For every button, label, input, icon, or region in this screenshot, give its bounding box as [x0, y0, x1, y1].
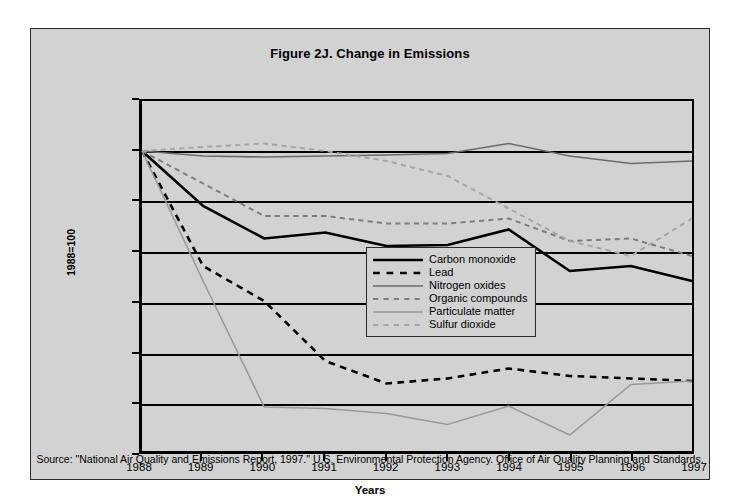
- legend-label: Sulfur dioxide: [429, 318, 496, 331]
- legend-label: Particulate matter: [429, 305, 515, 318]
- legend-item-carbon-monoxide: Carbon monoxide: [372, 253, 527, 266]
- legend-label: Lead: [429, 266, 453, 279]
- y-tick-mark-80: [132, 250, 139, 252]
- y-tick-mark-100: [132, 149, 139, 151]
- legend-item-organic-compounds: Organic compounds: [372, 292, 527, 305]
- legend-swatch-icon: [372, 306, 424, 318]
- legend-label: Carbon monoxide: [429, 253, 516, 266]
- legend-swatch-icon: [372, 254, 424, 266]
- x-axis-title: Years: [31, 484, 709, 496]
- legend-swatch-icon: [372, 319, 424, 331]
- y-tick-mark-60: [132, 352, 139, 354]
- y-axis-title: 1988=100: [65, 229, 77, 276]
- series-line-organic-compounds: [142, 151, 692, 256]
- page-root: Figure 2J. Change in Emissions 1988=100 …: [0, 0, 740, 502]
- legend-item-nitrogen-oxides: Nitrogen oxides: [372, 279, 527, 292]
- legend-item-sulfur-dioxide: Sulfur dioxide: [372, 318, 527, 331]
- y-tick-mark-90: [132, 199, 139, 201]
- y-tick-mark-50: [132, 402, 139, 404]
- source-note: Source: "National Air Quality and Emissi…: [31, 453, 709, 465]
- figure-panel: Figure 2J. Change in Emissions 1988=100 …: [30, 28, 710, 480]
- y-tick-mark-110: [132, 98, 139, 100]
- legend-swatch-icon: [372, 293, 424, 305]
- legend-item-lead: Lead: [372, 266, 527, 279]
- chart-title: Figure 2J. Change in Emissions: [31, 46, 709, 61]
- chart-legend: Carbon monoxideLeadNitrogen oxidesOrgani…: [366, 247, 536, 337]
- legend-swatch-icon: [372, 280, 424, 292]
- series-line-nitrogen-oxides: [142, 144, 692, 164]
- legend-item-particulate-matter: Particulate matter: [372, 305, 527, 318]
- legend-label: Nitrogen oxides: [429, 279, 505, 292]
- legend-swatch-icon: [372, 267, 424, 279]
- legend-label: Organic compounds: [429, 292, 527, 305]
- y-tick-mark-70: [132, 301, 139, 303]
